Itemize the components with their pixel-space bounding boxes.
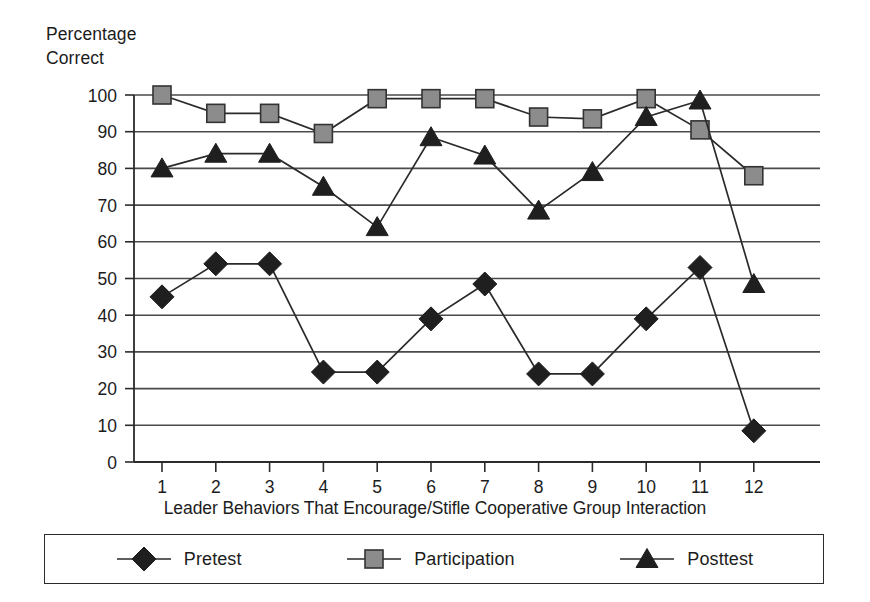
y-tick-label: 60 bbox=[98, 232, 118, 252]
legend-item-pretest[interactable]: Pretest bbox=[115, 546, 242, 572]
y-tick-label: 50 bbox=[98, 269, 118, 289]
series-line bbox=[162, 101, 754, 285]
x-tick-label: 2 bbox=[211, 477, 221, 497]
x-axis: 123456789101112 bbox=[134, 462, 820, 497]
diamond-marker-icon bbox=[258, 252, 282, 276]
diamond-marker-icon bbox=[742, 419, 766, 443]
square-marker-icon bbox=[637, 90, 655, 108]
diamond-marker-icon bbox=[527, 362, 551, 386]
diamond-marker-icon bbox=[132, 547, 156, 571]
y-tick-label: 100 bbox=[88, 86, 117, 106]
x-tick-label: 11 bbox=[691, 477, 709, 497]
square-marker-icon bbox=[476, 90, 494, 108]
plot-area: 0102030405060708090100 123456789101112 bbox=[0, 0, 870, 530]
x-tick-label: 1 bbox=[157, 477, 167, 497]
square-marker-icon bbox=[422, 90, 440, 108]
x-tick-label: 8 bbox=[534, 477, 544, 497]
triangle-marker-icon bbox=[151, 158, 173, 177]
y-tick-label: 0 bbox=[107, 453, 117, 473]
x-tick-label: 3 bbox=[265, 477, 275, 497]
y-axis: 0102030405060708090100 bbox=[88, 86, 134, 473]
triangle-marker-icon bbox=[636, 549, 658, 568]
triangle-marker-icon bbox=[635, 107, 657, 126]
y-tick-label: 90 bbox=[98, 122, 118, 142]
series-line bbox=[162, 264, 754, 431]
square-marker-icon bbox=[368, 90, 386, 108]
diamond-marker-icon bbox=[115, 546, 173, 572]
triangle-marker-icon bbox=[259, 143, 281, 162]
x-tick-label: 4 bbox=[319, 477, 329, 497]
series-line bbox=[162, 95, 754, 176]
square-marker-icon bbox=[365, 550, 383, 568]
y-tick-label: 40 bbox=[98, 306, 118, 326]
legend-item-posttest[interactable]: Posttest bbox=[618, 546, 753, 572]
x-tick-label: 12 bbox=[744, 477, 763, 497]
chart-figure: Percentage Correct 010203040506070809010… bbox=[0, 0, 870, 602]
y-tick-label: 20 bbox=[98, 379, 118, 399]
triangle-marker-icon bbox=[312, 176, 334, 195]
x-tick-label: 9 bbox=[588, 477, 598, 497]
y-tick-label: 30 bbox=[98, 342, 118, 362]
x-tick-label: 5 bbox=[372, 477, 382, 497]
square-marker-icon bbox=[207, 104, 225, 122]
triangle-marker-icon bbox=[689, 90, 711, 109]
square-marker-icon bbox=[261, 104, 279, 122]
triangle-marker-icon bbox=[205, 143, 227, 162]
legend-label: Posttest bbox=[687, 549, 753, 570]
triangle-marker-icon bbox=[474, 145, 496, 164]
triangle-marker-icon bbox=[618, 546, 676, 572]
triangle-marker-icon bbox=[420, 127, 442, 146]
legend-label: Pretest bbox=[184, 549, 242, 570]
legend-items: PretestParticipationPosttest bbox=[45, 535, 823, 583]
diamond-marker-icon bbox=[311, 360, 335, 384]
square-marker-icon bbox=[345, 546, 403, 572]
legend-item-participation[interactable]: Participation bbox=[345, 546, 514, 572]
x-axis-title: Leader Behaviors That Encourage/Stifle C… bbox=[0, 498, 870, 519]
x-tick-label: 7 bbox=[480, 477, 490, 497]
series-posttest bbox=[151, 90, 765, 293]
triangle-marker-icon bbox=[366, 217, 388, 236]
square-marker-icon bbox=[530, 108, 548, 126]
x-tick-label: 6 bbox=[426, 477, 436, 497]
square-marker-icon bbox=[745, 167, 763, 185]
x-tick-label: 10 bbox=[636, 477, 656, 497]
series-pretest bbox=[150, 252, 766, 443]
y-tick-label: 80 bbox=[98, 159, 118, 179]
series-participation bbox=[153, 86, 763, 185]
diamond-marker-icon bbox=[204, 252, 228, 276]
diamond-marker-icon bbox=[473, 272, 497, 296]
square-marker-icon bbox=[314, 125, 332, 143]
triangle-marker-icon bbox=[743, 274, 765, 293]
y-tick-label: 70 bbox=[98, 196, 118, 216]
square-marker-icon bbox=[583, 110, 601, 128]
y-tick-label: 10 bbox=[98, 416, 118, 436]
diamond-marker-icon bbox=[150, 285, 174, 309]
square-marker-icon bbox=[153, 86, 171, 104]
legend-label: Participation bbox=[414, 549, 514, 570]
legend: PretestParticipationPosttest bbox=[44, 534, 824, 584]
